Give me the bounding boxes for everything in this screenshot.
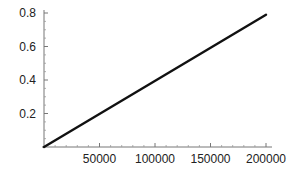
line-chart: 0.20.40.60.8 50000100000150000200000 [0, 0, 306, 171]
x-ticks: 50000100000150000200000 [83, 143, 287, 166]
y-tick-label: 0.6 [19, 40, 36, 54]
x-tick-label: 150000 [190, 152, 230, 166]
axes: 0.20.40.60.8 50000100000150000200000 [19, 6, 286, 166]
y-tick-label: 0.4 [19, 73, 36, 87]
x-tick-label: 50000 [83, 152, 117, 166]
x-tick-label: 200000 [246, 152, 286, 166]
y-tick-label: 0.2 [19, 107, 36, 121]
x-tick-label: 100000 [135, 152, 175, 166]
y-tick-label: 0.8 [19, 6, 36, 20]
series-line [44, 15, 266, 147]
data-series [44, 15, 266, 147]
